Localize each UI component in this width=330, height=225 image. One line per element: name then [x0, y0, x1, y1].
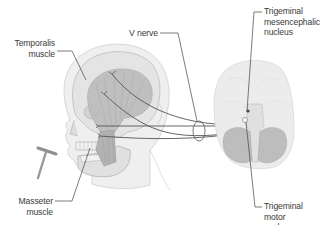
- label-line: Trigeminal: [264, 6, 320, 17]
- nerve-loop-ellipse: [193, 121, 205, 141]
- reflex-hammer-icon: [38, 148, 56, 178]
- jaw-reflex-diagram: Temporalis muscle V nerve Trigeminal mes…: [0, 0, 330, 225]
- label-line: Temporalis: [3, 38, 55, 49]
- v-nerve-label: V nerve: [120, 28, 158, 39]
- label-line: Masseter: [3, 196, 53, 207]
- brain-inferior-view: [214, 60, 294, 168]
- trigeminal-motor-nucleus-label: Trigeminal motor nucleus: [264, 201, 303, 225]
- label-line: motor: [264, 212, 303, 223]
- label-line: nucleus: [264, 222, 303, 225]
- masseter-muscle-label: Masseter muscle: [3, 196, 53, 217]
- label-line: Trigeminal: [264, 201, 303, 212]
- trigeminal-mesencephalic-nucleus-label: Trigeminal mesencephalic nucleus: [264, 6, 320, 38]
- label-line: nucleus: [264, 27, 320, 38]
- label-line: V nerve: [120, 28, 158, 39]
- label-line: muscle: [3, 207, 53, 218]
- temporalis-muscle-label: Temporalis muscle: [3, 38, 55, 59]
- label-line: muscle: [3, 49, 55, 60]
- label-line: mesencephalic: [264, 17, 320, 28]
